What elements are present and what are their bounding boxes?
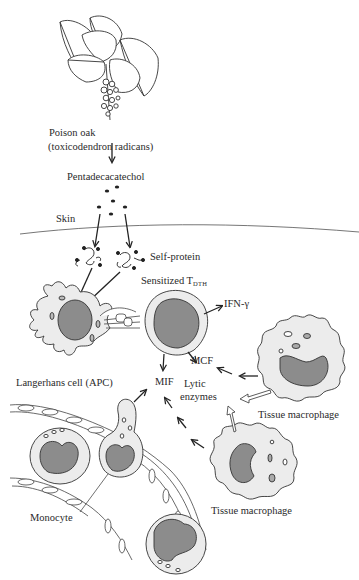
label-macrophage-bottom: Tissue macrophage [211, 505, 292, 517]
monocyte-icon [99, 399, 143, 477]
label-lytic-1: Lytic [184, 378, 206, 390]
label-monocyte: Monocyte [30, 512, 73, 524]
dendritic-cell-icon [30, 282, 112, 355]
label-ifn: IFN-γ [224, 298, 249, 310]
label-langerhans: Langerhans cell (APC) [16, 377, 113, 389]
monocyte-icon [146, 514, 206, 574]
skin-surface [20, 225, 359, 234]
dth-diagram [0, 0, 359, 580]
macrophage-icon [210, 423, 297, 499]
plant-icon [60, 16, 158, 120]
label-skin: Skin [56, 213, 75, 225]
macrophage-icon [258, 315, 345, 401]
label-lytic-2: enzymes [180, 391, 217, 403]
hapten-molecules [97, 185, 127, 215]
monocyte-icon [30, 428, 90, 484]
label-plant-species: (toxicodendron radicans) [48, 141, 153, 153]
self-protein-icon [75, 246, 144, 269]
hollow-arrow-icon [240, 390, 271, 403]
label-hapten: Pentadecacatechol [67, 171, 145, 183]
label-self-protein: Self-protein [150, 251, 200, 263]
t-cell-icon [145, 290, 208, 355]
label-sensitized-t: Sensitized TDTH [141, 275, 207, 290]
label-mcf: MCF [191, 355, 213, 367]
label-mif: MIF [155, 376, 174, 388]
label-plant: Poison oak [49, 127, 95, 139]
label-sensitized-t-sub: DTH [193, 280, 207, 287]
label-sensitized-t-main: Sensitized T [141, 275, 193, 286]
label-macrophage-top: Tissue macrophage [258, 409, 339, 421]
